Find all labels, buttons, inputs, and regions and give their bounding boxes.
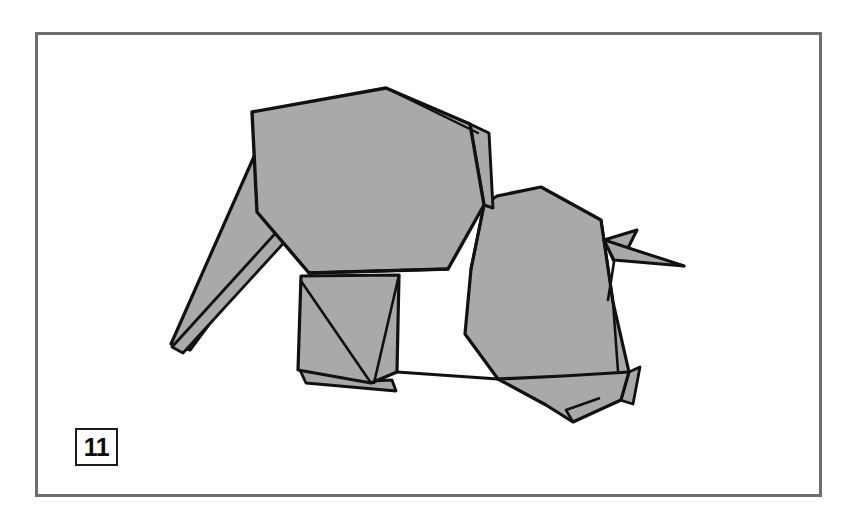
body-group [465, 187, 629, 399]
front-leg [298, 275, 399, 383]
origami-diagram-page: 11 [0, 0, 856, 526]
origami-elephant-illustration [0, 0, 856, 526]
hind-leg [498, 372, 629, 422]
step-number-text: 11 [84, 435, 109, 460]
head-group [252, 88, 493, 273]
tail-lower [604, 240, 684, 266]
step-number-badge: 11 [75, 428, 118, 466]
body-panel [465, 187, 629, 383]
belly-crease [397, 372, 498, 379]
tail-group [604, 230, 684, 300]
head-panel [252, 88, 484, 273]
